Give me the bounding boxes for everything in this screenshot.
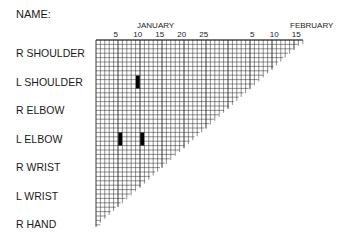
mark: [118, 133, 122, 146]
mark: [136, 76, 140, 89]
calendar-grid: [0, 0, 342, 234]
mark: [140, 133, 144, 146]
